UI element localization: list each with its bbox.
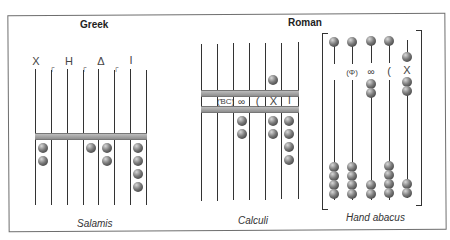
left-bracket <box>322 33 328 210</box>
hand-abacus-caption: Hand abacus <box>346 212 405 223</box>
bead <box>329 37 339 47</box>
calculi-caption: Calculi <box>238 215 268 226</box>
bead <box>284 142 294 152</box>
bead <box>402 86 412 96</box>
symbol-x: X <box>29 55 43 67</box>
bead <box>347 37 357 47</box>
bead <box>384 36 394 46</box>
bead <box>366 189 376 199</box>
bead <box>268 129 278 139</box>
symbol-phi: (Φ) <box>342 67 362 79</box>
symbol-100: ( <box>249 95 266 107</box>
symbol-gamma: ┌ <box>77 62 91 74</box>
rod <box>201 44 202 201</box>
bead <box>284 155 294 165</box>
rod <box>217 44 218 201</box>
symbol-gamma: ┌ <box>45 62 59 74</box>
bead <box>366 36 376 46</box>
symbol-delta: Δ <box>94 55 108 67</box>
rod <box>334 44 335 64</box>
symbol-1000: ∞ <box>233 96 250 108</box>
bead <box>347 189 357 199</box>
rod <box>389 43 390 63</box>
bead <box>86 143 96 153</box>
symbol-10: X <box>265 95 282 107</box>
bead <box>38 143 48 153</box>
bead <box>133 156 143 166</box>
rod <box>249 43 250 200</box>
bead <box>133 182 143 192</box>
bead <box>237 116 247 126</box>
symbol-infinity: ∞ <box>364 66 378 78</box>
greek-title: Greek <box>80 19 108 30</box>
symbol-i: I <box>124 54 138 66</box>
bead <box>329 189 339 199</box>
divider-bar <box>35 133 147 140</box>
symbol-gamma: ┌ <box>109 62 123 74</box>
bead <box>384 188 394 198</box>
bead <box>38 156 48 166</box>
bead <box>102 156 112 166</box>
bead <box>268 75 278 85</box>
symbol-h: H <box>62 55 76 67</box>
symbol-100000: (ƁC) <box>217 96 234 108</box>
symbol-c: ( <box>382 65 396 77</box>
bead <box>284 129 294 139</box>
rod <box>371 43 372 63</box>
rod <box>352 44 353 64</box>
right-bracket <box>416 30 422 206</box>
symbol-x: X <box>400 64 414 76</box>
bead <box>268 116 278 126</box>
rod <box>281 43 282 199</box>
symbol-1: I <box>281 95 298 107</box>
bead <box>237 129 247 139</box>
bead <box>402 188 412 198</box>
figure-frame <box>7 13 446 233</box>
salamis-caption: Salamis <box>77 218 113 229</box>
bead <box>284 116 294 126</box>
bead <box>366 88 376 98</box>
rod <box>265 43 266 200</box>
lower-bar <box>201 106 299 113</box>
bead <box>133 169 143 179</box>
rod <box>233 43 234 200</box>
rod <box>298 42 299 199</box>
roman-title: Roman <box>288 17 322 28</box>
bead <box>133 143 143 153</box>
bead <box>102 143 112 153</box>
bead <box>402 52 412 62</box>
